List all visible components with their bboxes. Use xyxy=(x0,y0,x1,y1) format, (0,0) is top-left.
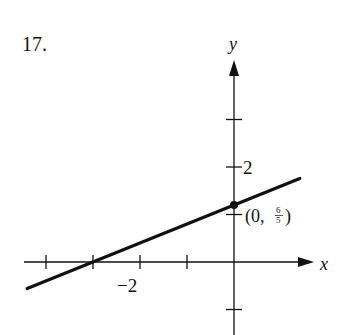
x-tick-label: −2 xyxy=(117,275,137,296)
point-label-numerator: 6 xyxy=(276,205,281,215)
point-label-prefix: (0, xyxy=(245,206,265,227)
problem-number: 17. xyxy=(22,33,47,55)
x-axis-arrow-icon xyxy=(298,257,314,267)
y-tick-label: 2 xyxy=(243,157,253,178)
point-label-denominator: 5 xyxy=(276,215,281,225)
point-label: (0, 6 5 ) xyxy=(245,205,291,227)
graph: 17. x y −2 2 (0, 6 5 ) xyxy=(0,0,345,335)
y-axis-label: y xyxy=(227,34,237,54)
point-label-suffix: ) xyxy=(285,206,291,227)
intercept-point xyxy=(230,201,238,209)
y-axis-arrow-icon xyxy=(229,60,239,76)
x-axis-label: x xyxy=(319,254,328,274)
data-line xyxy=(27,178,300,288)
